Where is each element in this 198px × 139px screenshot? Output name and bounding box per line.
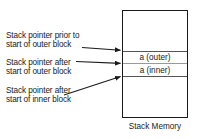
leader-line-after-outer [76, 62, 121, 64]
stack-memory-caption: Stack Memory [122, 122, 188, 131]
stack-cell-a-inner-label: a (inner) [140, 66, 171, 75]
leader-line-after-inner [64, 77, 121, 95]
leader-line-prior-outer [82, 48, 121, 51]
stack-cell-a-inner: a (inner) [123, 64, 187, 77]
stack-memory-box: a (outer) a (inner) [122, 10, 188, 118]
stack-cell-a-outer-label: a (outer) [140, 53, 171, 62]
stack-memory-diagram: Stack pointer prior to start of outer bl… [0, 0, 198, 139]
stack-cell-a-outer: a (outer) [123, 51, 187, 64]
